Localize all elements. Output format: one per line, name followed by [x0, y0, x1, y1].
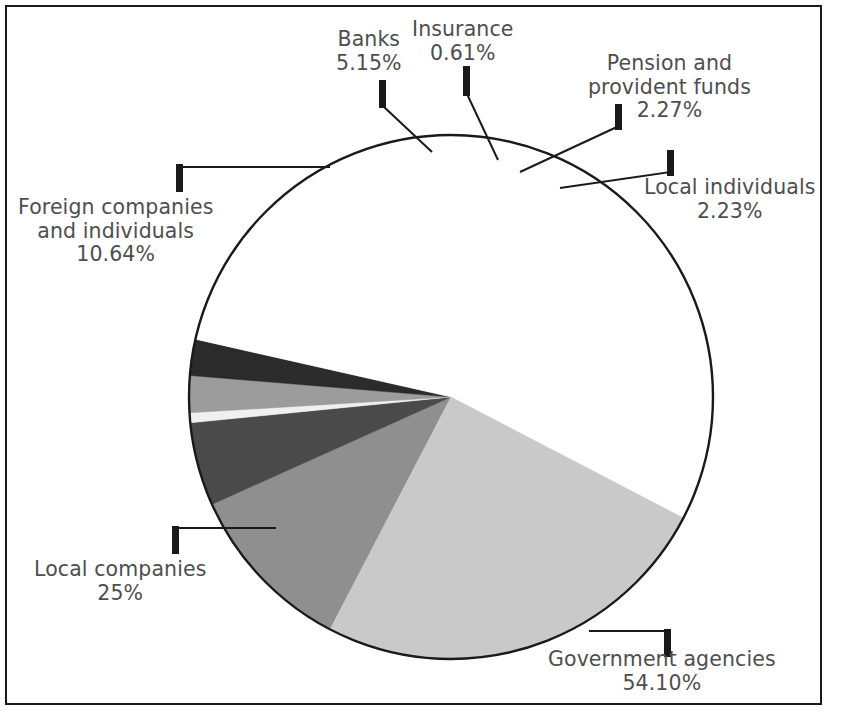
slice-label-local-individuals-value: 2.23% — [644, 200, 816, 224]
pie-chart-page: Banks 5.15% Insurance 0.61% Pension and … — [0, 0, 847, 714]
slice-label-banks-name: Banks — [336, 28, 402, 52]
slice-label-insurance-name: Insurance — [412, 18, 513, 42]
slice-label-local-individuals-name: Local individuals — [644, 176, 816, 200]
slice-label-foreign-companies: Foreign companies and individuals 10.64% — [18, 196, 213, 267]
slice-label-pension-name-1: Pension and — [588, 52, 751, 76]
slice-label-pension-name-2: provident funds — [588, 76, 751, 100]
slice-label-government-value: 54.10% — [548, 672, 776, 696]
slice-label-local-companies-name: Local companies — [34, 558, 207, 582]
slice-label-foreign-name-2: and individuals — [18, 220, 213, 244]
pie-slices — [189, 135, 713, 659]
leader-tick-foreign — [176, 164, 183, 192]
slice-label-foreign-value: 10.64% — [18, 243, 213, 267]
slice-label-insurance: Insurance 0.61% — [412, 18, 513, 65]
slice-label-insurance-value: 0.61% — [412, 42, 513, 66]
slice-label-local-companies: Local companies 25% — [34, 558, 207, 605]
slice-label-banks-value: 5.15% — [336, 52, 402, 76]
leader-tick-insurance — [463, 66, 470, 96]
slice-label-government-name: Government agencies — [548, 648, 776, 672]
leader-tick-banks — [379, 80, 386, 108]
slice-label-pension: Pension and provident funds 2.27% — [588, 52, 751, 123]
leader-tick-local-individuals — [667, 150, 674, 176]
slice-label-local-companies-value: 25% — [34, 582, 207, 606]
slice-label-pension-value: 2.27% — [588, 99, 751, 123]
slice-label-foreign-name-1: Foreign companies — [18, 196, 213, 220]
leader-tick-local-companies — [172, 526, 179, 554]
slice-label-banks: Banks 5.15% — [336, 28, 402, 75]
slice-label-government-agencies: Government agencies 54.10% — [548, 648, 776, 695]
slice-label-local-individuals: Local individuals 2.23% — [644, 176, 816, 223]
